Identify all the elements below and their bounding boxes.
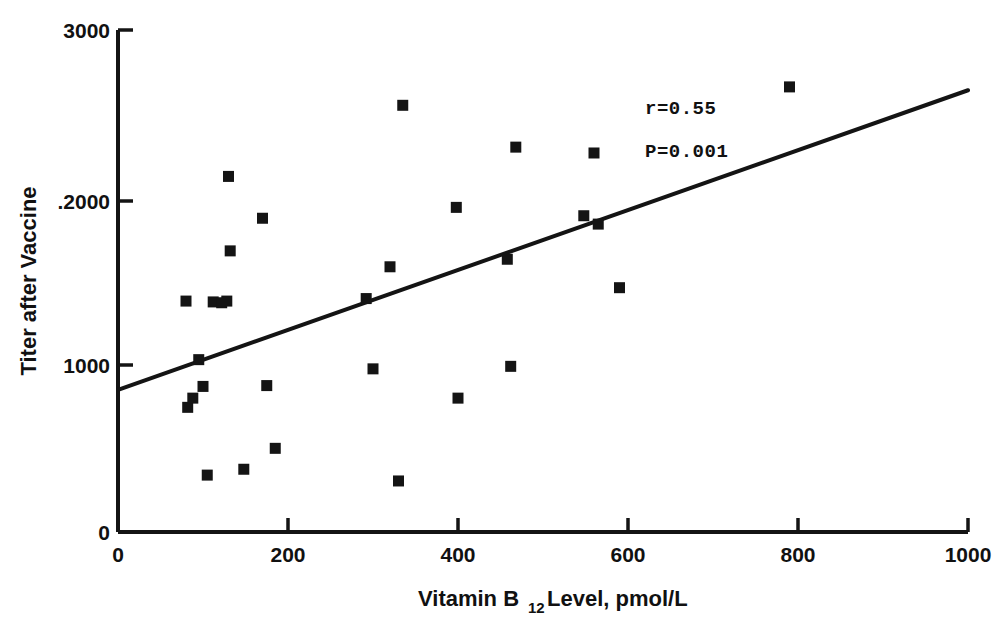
data-point xyxy=(361,293,372,304)
data-point xyxy=(589,147,600,158)
data-point xyxy=(181,296,192,307)
x-axis-title: Vitamin B 12 Level, pmol/L xyxy=(418,586,688,616)
plot-canvas: 3000 .2000 1000 0 0 200 400 600 800 1000… xyxy=(0,0,1005,629)
y-axis-tick-labels: 3000 .2000 1000 0 xyxy=(57,19,110,544)
data-point xyxy=(193,354,204,365)
data-point xyxy=(238,464,249,475)
x-tick-label-400: 400 xyxy=(440,543,475,566)
x-axis-title-subscript: 12 xyxy=(528,599,545,616)
y-axis-ticks xyxy=(118,30,133,532)
data-point xyxy=(202,470,213,481)
y-tick-label-2000: .2000 xyxy=(57,190,110,213)
data-point xyxy=(593,219,604,230)
data-point xyxy=(187,393,198,404)
data-point xyxy=(453,393,464,404)
x-axis-title-tail: Level, pmol/L xyxy=(547,586,688,611)
y-tick-label-3000: 3000 xyxy=(63,19,110,42)
data-point xyxy=(614,282,625,293)
statistics-annotations: r=0.55 P=0.001 xyxy=(645,98,728,164)
x-tick-label-1000: 1000 xyxy=(945,543,992,566)
x-tick-label-200: 200 xyxy=(270,543,305,566)
data-point xyxy=(261,380,272,391)
data-point xyxy=(397,100,408,111)
data-point xyxy=(223,171,234,182)
x-axis-title-main: Vitamin B xyxy=(418,586,519,611)
data-point xyxy=(505,361,516,372)
x-tick-label-800: 800 xyxy=(780,543,815,566)
x-axis-tick-labels: 0 200 400 600 800 1000 xyxy=(112,543,991,566)
data-point xyxy=(784,81,795,92)
data-point xyxy=(270,443,281,454)
x-tick-label-600: 600 xyxy=(610,543,645,566)
y-axis-title: Titer after Vaccine xyxy=(16,186,41,375)
data-point xyxy=(578,210,589,221)
x-axis-ticks xyxy=(118,518,968,532)
correlation-annotation: r=0.55 xyxy=(645,98,716,120)
data-point xyxy=(393,475,404,486)
data-point xyxy=(368,363,379,374)
data-point xyxy=(225,245,236,256)
data-point xyxy=(198,381,209,392)
p-value-annotation: P=0.001 xyxy=(645,141,728,163)
x-tick-label-0: 0 xyxy=(112,543,124,566)
data-point xyxy=(385,261,396,272)
regression-trend-line xyxy=(118,90,968,390)
axes-group xyxy=(118,30,968,532)
data-point xyxy=(451,202,462,213)
data-point xyxy=(257,213,268,224)
scatter-plot-figure: 3000 .2000 1000 0 0 200 400 600 800 1000… xyxy=(0,0,1005,629)
y-tick-label-1000: 1000 xyxy=(63,354,110,377)
data-point xyxy=(502,254,513,265)
y-tick-label-0: 0 xyxy=(98,521,110,544)
data-point xyxy=(510,142,521,153)
trend-line-group xyxy=(118,90,968,390)
data-point xyxy=(221,296,232,307)
